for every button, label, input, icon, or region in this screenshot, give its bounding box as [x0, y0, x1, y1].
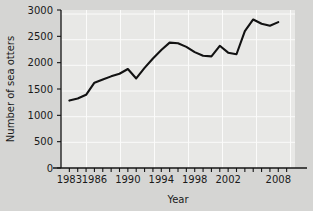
- y-tick-label: 0: [47, 163, 53, 174]
- y-axis-title: Number of sea otters: [5, 36, 16, 142]
- x-tick-label: 1994: [149, 174, 174, 185]
- y-tick-label: 1000: [28, 110, 53, 121]
- x-tick-label: 1983: [57, 174, 82, 185]
- y-tick-label: 2500: [28, 31, 53, 42]
- y-tick-label: 3000: [28, 5, 53, 16]
- x-tick-label: 2008: [266, 174, 291, 185]
- y-tick-label: 1500: [28, 84, 53, 95]
- x-tick-label: 1990: [115, 174, 140, 185]
- x-tick-label: 1998: [182, 174, 207, 185]
- x-tick-label: 2002: [215, 174, 240, 185]
- x-tick-label: 1986: [82, 174, 107, 185]
- x-axis-title: Year: [166, 194, 189, 205]
- plot-area-background: [61, 10, 295, 168]
- sea-otter-line-chart: 050010001500200025003000 198319861990199…: [0, 0, 313, 211]
- y-tick-label: 2000: [28, 57, 53, 68]
- y-tick-label: 500: [34, 136, 53, 147]
